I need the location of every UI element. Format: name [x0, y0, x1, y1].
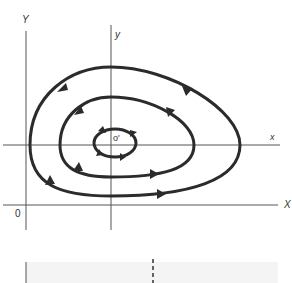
arrow-icon [73, 162, 83, 171]
global-origin-label: 0 [15, 209, 21, 219]
arrow-icon [150, 169, 159, 179]
bottom-strip [26, 262, 278, 283]
arrow-icon [45, 175, 55, 185]
local-x-axis-label: x [270, 133, 275, 142]
phase-portrait-figure: Y y x X 0 o' [0, 0, 292, 283]
global-x-axis-label: X [284, 200, 291, 210]
arrow-icon [157, 189, 166, 199]
local-y-axis-label: y [115, 30, 120, 40]
diagram-canvas [0, 0, 292, 283]
center-point-label: o' [113, 134, 120, 143]
arrow-icon [182, 86, 193, 96]
global-y-axis-label: Y [22, 15, 29, 25]
